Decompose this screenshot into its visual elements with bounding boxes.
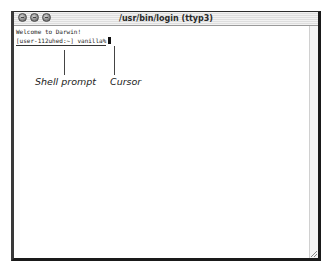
cursor-label: Cursor — [110, 76, 141, 87]
title-bar[interactable]: /usr/bin/login (ttyp3) — [14, 12, 318, 26]
shell-prompt-callout-line — [64, 50, 65, 75]
welcome-line: Welcome to Darwin! — [16, 27, 308, 36]
vertical-scrollbar[interactable] — [309, 26, 318, 258]
prompt-row: [user-112uhed:~] vanilla% — [16, 36, 308, 46]
terminal-window: /usr/bin/login (ttyp3) Welcome to Darwin… — [11, 11, 321, 261]
cursor-callout-line — [114, 46, 115, 75]
shell-prompt-label: Shell prompt — [35, 76, 96, 87]
cursor — [108, 37, 111, 44]
resize-grip-icon[interactable] — [311, 251, 317, 257]
shell-prompt: [user-112uhed:~] vanilla% — [16, 36, 106, 46]
window-title: /usr/bin/login (ttyp3) — [14, 12, 318, 25]
terminal-output[interactable]: Welcome to Darwin! [user-112uhed:~] vani… — [16, 27, 308, 256]
